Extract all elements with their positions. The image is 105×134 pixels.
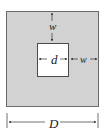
label-w-top: w (48, 21, 57, 32)
label-d: d (50, 53, 59, 66)
label-w-right: w (79, 55, 88, 65)
label-D: D (47, 117, 60, 130)
